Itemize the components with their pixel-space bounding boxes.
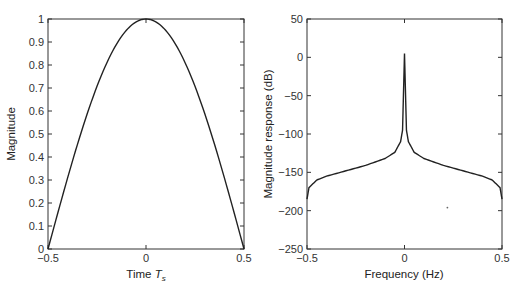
x-tick-label: 0 bbox=[143, 252, 149, 264]
y-tick-label: −50 bbox=[284, 90, 303, 102]
x-tick-label: −0.5 bbox=[296, 252, 318, 264]
right-y-axis-label: Magnitude response (dB) bbox=[262, 69, 274, 198]
y-tick-label: 0.3 bbox=[29, 174, 44, 186]
y-tick-label: 0 bbox=[297, 51, 303, 63]
right-series-line bbox=[307, 54, 502, 200]
y-tick-label: −150 bbox=[278, 166, 303, 178]
y-tick-label: −100 bbox=[278, 128, 303, 140]
left-series-line bbox=[48, 19, 244, 249]
stray-data-dot bbox=[447, 207, 449, 209]
right-chart: −250−200−150−100−50050 −0.500.5 Frequenc… bbox=[262, 13, 510, 280]
x-tick-label: 0 bbox=[401, 252, 407, 264]
y-tick-label: 0.6 bbox=[29, 105, 44, 117]
right-x-axis-label: Frequency (Hz) bbox=[364, 268, 443, 280]
left-plot-frame bbox=[48, 19, 244, 249]
y-tick-label: 50 bbox=[291, 13, 303, 25]
y-tick-label: 0.7 bbox=[29, 82, 44, 94]
y-tick-label: 0.1 bbox=[29, 220, 44, 232]
y-tick-label: 0.9 bbox=[29, 36, 44, 48]
y-tick-label: 0.8 bbox=[29, 59, 44, 71]
right-y-ticks: −250−200−150−100−50050 bbox=[278, 13, 502, 255]
left-x-axis-label: Time Ts bbox=[126, 268, 165, 283]
y-tick-label: 0.5 bbox=[29, 128, 44, 140]
x-tick-label: −0.5 bbox=[37, 252, 59, 264]
left-x-ticks: −0.500.5 bbox=[37, 19, 252, 264]
y-tick-label: −200 bbox=[278, 205, 303, 217]
right-x-ticks: −0.500.5 bbox=[296, 19, 510, 264]
y-tick-label: 0.4 bbox=[29, 151, 44, 163]
figure: 00.10.20.30.40.50.60.70.80.91 −0.500.5 T… bbox=[0, 0, 520, 293]
left-chart: 00.10.20.30.40.50.60.70.80.91 −0.500.5 T… bbox=[5, 13, 252, 283]
y-tick-label: 1 bbox=[38, 13, 44, 25]
x-tick-label: 0.5 bbox=[236, 252, 251, 264]
x-tick-label: 0.5 bbox=[494, 252, 509, 264]
left-y-axis-label: Magnitude bbox=[5, 107, 17, 161]
y-tick-label: 0.2 bbox=[29, 197, 44, 209]
